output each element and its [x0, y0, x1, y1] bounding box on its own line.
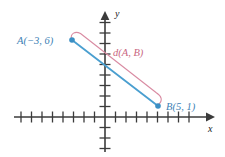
point-b-dot — [155, 103, 161, 109]
brace-path — [71, 32, 161, 105]
axis-group — [14, 11, 215, 152]
x-axis-label: x — [207, 123, 213, 134]
point-a-dot — [69, 37, 75, 43]
distance-brace — [71, 32, 161, 105]
y-axis-label: y — [114, 8, 120, 19]
distance-label: d(A, B) — [113, 47, 144, 59]
labels-group: A(−3, 6) B(5, 1) d(A, B) y x — [16, 8, 213, 134]
figure-canvas: A(−3, 6) B(5, 1) d(A, B) y x — [0, 0, 225, 157]
coordinate-plane-figure: A(−3, 6) B(5, 1) d(A, B) y x — [0, 0, 225, 157]
point-b-label: B(5, 1) — [166, 101, 196, 113]
y-axis-arrow-icon — [101, 11, 110, 20]
point-a-label: A(−3, 6) — [16, 35, 54, 47]
x-axis-arrow-icon — [206, 113, 215, 122]
